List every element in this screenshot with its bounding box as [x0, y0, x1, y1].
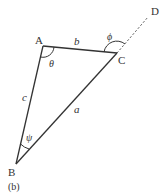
- angle-label-theta: θ: [49, 58, 54, 69]
- vertex-label-d: D: [151, 5, 159, 17]
- vertex-label-c: C: [118, 54, 125, 66]
- triangle-diagram: A C B D b c a θ ϕ ψ (b): [0, 0, 162, 193]
- side-label-a: a: [74, 103, 80, 115]
- angle-label-phi: ϕ: [107, 31, 112, 42]
- angle-phi-arc: [104, 41, 125, 52]
- side-a: [16, 53, 117, 164]
- figure-caption: (b): [8, 181, 20, 193]
- extension-cd: [117, 17, 148, 53]
- vertex-label-a: A: [35, 34, 43, 46]
- side-label-b: b: [74, 35, 80, 47]
- angle-psi-arc: [21, 144, 30, 149]
- angle-label-psi: ψ: [26, 132, 33, 143]
- side-c: [16, 46, 43, 164]
- side-label-c: c: [22, 91, 27, 103]
- vertex-label-b: B: [8, 166, 15, 178]
